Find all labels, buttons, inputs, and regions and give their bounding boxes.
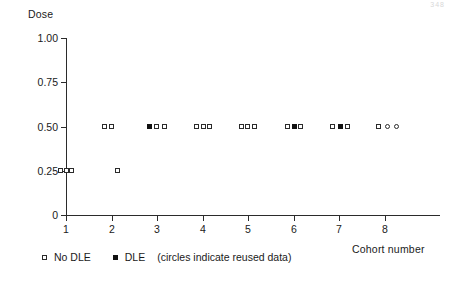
data-point-square-open <box>298 124 303 129</box>
y-axis-title: Dose <box>28 8 53 20</box>
data-point-square-open <box>162 124 167 129</box>
x-tick-label: 7 <box>329 224 349 235</box>
y-tick-label: 0.50 <box>14 122 58 132</box>
y-tick-mark <box>61 127 66 128</box>
data-point-square-open <box>345 124 350 129</box>
legend-item-no-dle: No DLE <box>42 252 91 263</box>
data-point-square-open <box>154 124 159 129</box>
y-axis-line <box>66 38 67 216</box>
x-axis-line <box>66 215 440 216</box>
page-number-artifact: 348 <box>430 1 445 8</box>
x-tick-mark <box>66 216 67 221</box>
data-point-square-open <box>115 168 120 173</box>
y-tick-mark <box>61 82 66 83</box>
legend-item-dle: DLE <box>113 252 145 263</box>
x-tick-label: 1 <box>56 224 76 235</box>
y-tick-label: 1.00 <box>14 33 58 43</box>
data-point-square-open <box>201 124 206 129</box>
x-tick-mark <box>157 216 158 221</box>
data-point-square-open <box>285 124 290 129</box>
data-point-square-open <box>330 124 335 129</box>
data-point-square-open <box>69 168 74 173</box>
x-tick-label: 5 <box>238 224 258 235</box>
data-point-square-filled <box>147 124 152 129</box>
data-point-square-open <box>109 124 114 129</box>
x-tick-mark <box>385 216 386 221</box>
data-point-square-open <box>245 124 250 129</box>
data-point-square-open <box>194 124 199 129</box>
y-tick-mark <box>61 38 66 39</box>
data-point-square-open <box>207 124 212 129</box>
legend-label-no-dle: No DLE <box>54 252 91 263</box>
x-tick-label: 6 <box>284 224 304 235</box>
data-point-square-open <box>376 124 381 129</box>
data-point-circle-open <box>385 124 390 129</box>
square-open-marker-icon <box>42 255 47 260</box>
x-tick-label: 8 <box>375 224 395 235</box>
x-tick-mark <box>339 216 340 221</box>
data-point-square-open <box>58 168 63 173</box>
data-point-square-open <box>64 168 69 173</box>
chart-legend: No DLE DLE (circles indicate reused data… <box>42 252 291 263</box>
dose-escalation-scatter-chart: 348 Dose Cohort number 1.000.750.500.250… <box>0 0 453 289</box>
data-point-square-filled <box>292 124 297 129</box>
y-tick-label: 0.75 <box>14 77 58 87</box>
x-tick-label: 2 <box>102 224 122 235</box>
x-tick-mark <box>203 216 204 221</box>
data-point-square-open <box>239 124 244 129</box>
data-point-square-open <box>102 124 107 129</box>
legend-note: (circles indicate reused data) <box>157 252 291 263</box>
x-tick-label: 4 <box>193 224 213 235</box>
y-tick-label: 0.25 <box>14 166 58 176</box>
x-tick-mark <box>248 216 249 221</box>
y-tick-label: 0 <box>14 210 58 220</box>
x-tick-mark <box>112 216 113 221</box>
data-point-square-open <box>252 124 257 129</box>
data-point-circle-open <box>394 124 399 129</box>
x-axis-title: Cohort number <box>352 243 425 255</box>
x-tick-mark <box>294 216 295 221</box>
square-filled-marker-icon <box>113 255 118 260</box>
x-tick-label: 3 <box>147 224 167 235</box>
data-point-square-filled <box>338 124 343 129</box>
legend-label-dle: DLE <box>125 252 145 263</box>
